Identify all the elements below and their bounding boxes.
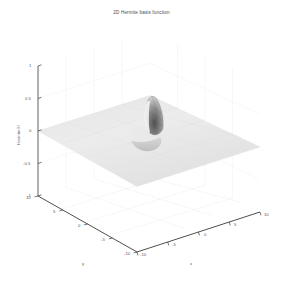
x-axis-label: x bbox=[190, 261, 192, 266]
z-tick-label-3: -0.5 bbox=[23, 161, 30, 166]
x-tick-label-3: 5 bbox=[234, 222, 236, 227]
z-tick-label-1: 0.5 bbox=[25, 96, 31, 101]
surface-plot-canvas bbox=[0, 0, 283, 286]
x-tick-label-4: 10 bbox=[264, 212, 269, 217]
y-axis-label: y bbox=[82, 261, 84, 266]
z-tick-label-2: 0 bbox=[29, 128, 31, 133]
matlab-figure-window: 2D Hermite basis function bbox=[0, 0, 283, 286]
y-tick-label-4: -10 bbox=[124, 251, 130, 256]
y-tick-label-0: 10 bbox=[26, 195, 31, 200]
z-axis-label: Hermite H bbox=[16, 125, 21, 145]
y-tick-label-2: 0 bbox=[78, 223, 80, 228]
y-tick-label-3: -5 bbox=[101, 237, 105, 242]
y-tick-label-1: 5 bbox=[53, 209, 55, 214]
z-tick-label-0: 1 bbox=[29, 63, 31, 68]
x-tick-label-0: -10 bbox=[140, 252, 146, 257]
x-tick-label-2: 0 bbox=[204, 232, 206, 237]
x-tick-label-1: -5 bbox=[172, 242, 176, 247]
